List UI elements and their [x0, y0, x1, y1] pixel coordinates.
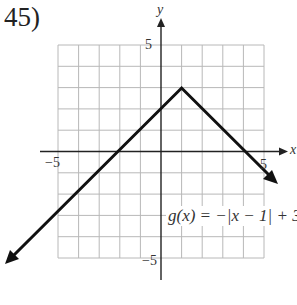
y-tick-neg5: −5	[142, 253, 157, 269]
x-tick-5: 5	[260, 157, 267, 173]
x-axis-arrow-icon	[279, 148, 288, 156]
y-axis-arrow-icon	[157, 18, 165, 27]
y-axis-label: y	[157, 2, 163, 18]
function-equation: g(x) = −|x − 1| + 3	[166, 206, 297, 226]
x-axis-label: x	[290, 142, 296, 158]
y-tick-5: 5	[145, 37, 152, 53]
x-tick-neg5: −5	[45, 155, 60, 171]
